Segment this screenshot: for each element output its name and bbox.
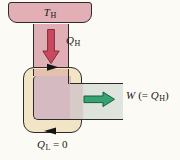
heat-rejected-value: = 0 <box>50 138 67 150</box>
engine-interior <box>33 76 71 120</box>
work-equals-text: (= <box>138 89 151 101</box>
heat-rejected-label: QL = 0 <box>37 139 68 152</box>
temperature-subscript: H <box>50 11 56 20</box>
work-output-label: W(= QH) <box>126 90 169 103</box>
heat-input-label: QH <box>66 35 80 48</box>
heat-rejected-symbol: Q <box>37 138 45 150</box>
work-output-channel <box>70 83 124 120</box>
work-heat-symbol: Q <box>151 89 159 101</box>
figure-canvas: TH QH W(= QH) QL = 0 <box>0 0 180 160</box>
work-symbol: W <box>126 89 135 101</box>
heat-input-channel <box>33 24 69 69</box>
hot-reservoir-label: TH <box>8 7 92 20</box>
work-close-paren: ) <box>165 89 169 101</box>
heat-symbol: Q <box>66 34 74 46</box>
heat-subscript: H <box>74 39 80 48</box>
temperature-symbol: T <box>44 6 50 18</box>
